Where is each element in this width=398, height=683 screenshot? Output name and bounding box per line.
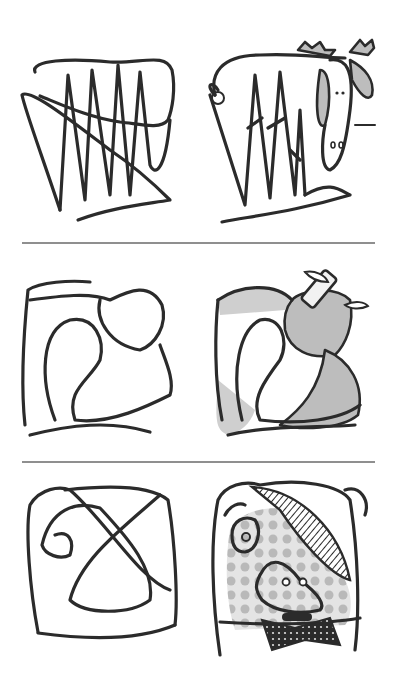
- cross-scribble: [28, 487, 176, 638]
- pig-with-bowtie-drawing: [213, 482, 366, 655]
- apple-drawing: [216, 269, 368, 435]
- moose-drawing: [210, 40, 375, 222]
- scribble-illustration: [0, 0, 398, 683]
- loop-scribble: [23, 281, 171, 435]
- illustration-svg: [0, 0, 398, 683]
- zigzag-scribble: [22, 60, 174, 220]
